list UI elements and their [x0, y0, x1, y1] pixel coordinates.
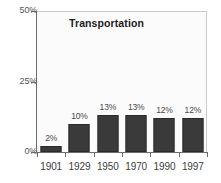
bar-group: 12%	[150, 11, 178, 152]
bar	[69, 124, 90, 152]
x-axis-tick-mark	[150, 153, 151, 157]
bar-group: 13%	[94, 11, 122, 152]
transportation-bar-chart: Transportation 0%25%50% 2%10%13%13%12%12…	[0, 0, 221, 183]
bar	[182, 118, 203, 152]
x-axis-tick-label: 1901	[40, 161, 62, 172]
y-axis-tick-label: 50%	[8, 5, 37, 15]
x-axis-tick-mark	[37, 153, 38, 157]
y-axis-tick-label: 25%	[8, 76, 37, 86]
x-axis-tick-mark	[179, 153, 180, 157]
bar-group: 2%	[37, 11, 65, 152]
x-axis-tick-mark	[94, 153, 95, 157]
bar-value-label: 2%	[45, 133, 57, 143]
x-axis-tick-label: 1929	[69, 161, 91, 172]
x-axis-tick-mark	[122, 153, 123, 157]
bar-group: 12%	[179, 11, 207, 152]
bar-group: 10%	[65, 11, 93, 152]
bar-value-label: 13%	[100, 102, 116, 112]
bar	[126, 115, 147, 152]
x-axis-tick-label: 1997	[182, 161, 204, 172]
x-axis-tick-label: 1970	[125, 161, 147, 172]
bar-group: 13%	[122, 11, 150, 152]
bar	[97, 115, 118, 152]
x-axis-tick-mark	[207, 153, 208, 157]
y-axis-tick-label: 0%	[8, 146, 37, 156]
bar-value-label: 13%	[128, 102, 144, 112]
bar	[154, 118, 175, 152]
bars-layer: 2%10%13%13%12%12%	[37, 11, 207, 152]
bar-value-label: 12%	[156, 105, 172, 115]
x-axis-tick-label: 1990	[154, 161, 176, 172]
x-axis-tick-label: 1950	[97, 161, 119, 172]
x-axis-tick-mark	[65, 153, 66, 157]
bar-value-label: 10%	[71, 111, 87, 121]
bar-value-label: 12%	[185, 105, 201, 115]
